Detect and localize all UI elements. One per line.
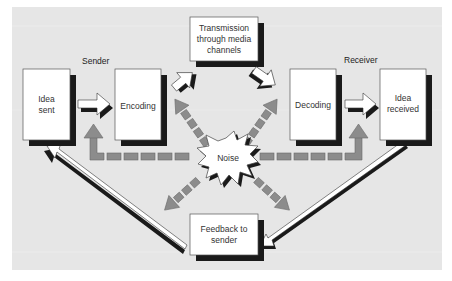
decoding-box: Decoding — [290, 69, 342, 146]
receiver-label: Receiver — [344, 55, 378, 65]
sender-label: Sender — [82, 56, 110, 66]
transmission-line1: Transmission — [199, 23, 249, 33]
communication-process-diagram: Sender Receiver — [0, 0, 452, 281]
idea-sent-line2: sent — [38, 105, 55, 115]
idea-sent-box: Idea sent — [23, 69, 76, 146]
transmission-line2: through media — [197, 34, 252, 44]
transmission-box: Transmission through media channels — [190, 17, 264, 67]
idea-received-box: Idea received — [380, 69, 432, 146]
decoding-label: Decoding — [295, 100, 331, 110]
feedback-line2: sender — [211, 235, 237, 245]
noise-label: Noise — [217, 153, 239, 163]
idea-received-line2: received — [387, 104, 419, 114]
idea-sent-line1: Idea — [38, 94, 55, 104]
idea-received-line1: Idea — [395, 93, 412, 103]
feedback-line1: Feedback to — [201, 224, 248, 234]
encoding-box: Encoding — [115, 69, 167, 146]
transmission-line3: channels — [207, 45, 241, 55]
feedback-box: Feedback to sender — [190, 214, 264, 261]
encoding-label: Encoding — [120, 101, 156, 111]
